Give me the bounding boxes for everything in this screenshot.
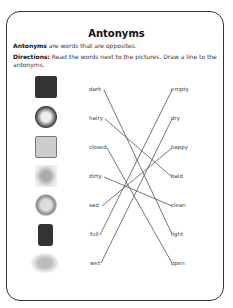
match-line-wet-dry [101, 119, 172, 263]
match-line-hairy-bald [105, 119, 172, 177]
match-line-dark-light [104, 90, 172, 234]
match-line-sad-happy [102, 148, 172, 206]
match-lines [0, 0, 233, 308]
match-line-full-empty [100, 90, 172, 235]
match-line-dirty-clean [104, 177, 172, 206]
